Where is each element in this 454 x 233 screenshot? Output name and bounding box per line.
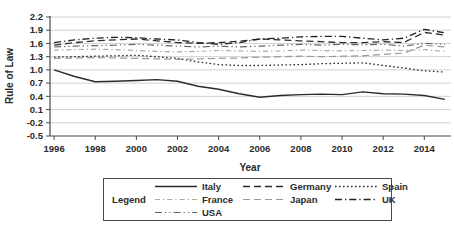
x-axis-title: Year xyxy=(239,162,260,173)
x-tick-label: 2012 xyxy=(373,143,394,154)
series-line-japan xyxy=(54,45,445,59)
spain-line-sample xyxy=(334,182,378,191)
legend-label-spain: Spain xyxy=(382,181,408,192)
legend-title: Legend xyxy=(104,194,154,205)
legend-label-france: France xyxy=(202,194,233,205)
legend-entry-france: France xyxy=(154,194,242,205)
series-lines xyxy=(54,29,445,99)
y-tick-label: 0.4 xyxy=(30,91,44,102)
legend-label-japan: Japan xyxy=(290,194,317,205)
series-line-usa xyxy=(54,43,445,47)
legend-entries: Italy Germany Spain France Japan UK xyxy=(154,180,418,219)
series-line-italy xyxy=(54,70,445,100)
x-tick-label: 2006 xyxy=(249,143,270,154)
x-tick-label: 2010 xyxy=(331,143,352,154)
x-tick-label: 2004 xyxy=(208,143,230,154)
x-tick-label: 1996 xyxy=(44,143,65,154)
y-tick-label: -0.5 xyxy=(27,130,44,141)
legend-entry-uk: UK xyxy=(334,194,418,205)
plot-area: 2.21.91.61.31.00.70.40.1-0.2-0.519961998… xyxy=(0,0,454,176)
legend-label-germany: Germany xyxy=(290,181,331,192)
y-tick-label: 1.9 xyxy=(30,24,43,35)
x-tick-label: 1998 xyxy=(85,143,106,154)
axes xyxy=(46,16,451,140)
tick-labels: 2.21.91.61.31.00.70.40.1-0.2-0.519961998… xyxy=(27,11,436,154)
legend-label-usa: USA xyxy=(202,207,222,218)
usa-line-sample xyxy=(154,208,198,217)
y-tick-label: 1.3 xyxy=(30,51,43,62)
legend-label-italy: Italy xyxy=(202,181,221,192)
italy-line-sample xyxy=(154,182,198,191)
legend-entry-spain: Spain xyxy=(334,181,418,192)
y-tick-label: 0.1 xyxy=(30,104,44,115)
uk-line-sample xyxy=(334,195,378,204)
x-tick-label: 2014 xyxy=(414,143,436,154)
series-line-france xyxy=(54,49,445,52)
y-tick-label: 0.7 xyxy=(30,77,43,88)
y-tick-label: 1.0 xyxy=(30,64,43,75)
rule-of-law-chart: 2.21.91.61.31.00.70.40.1-0.2-0.519961998… xyxy=(0,0,454,233)
x-tick-label: 2002 xyxy=(167,143,188,154)
germany-line-sample xyxy=(242,182,286,191)
legend-entry-italy: Italy xyxy=(154,181,242,192)
legend-label-uk: UK xyxy=(382,194,396,205)
gridlines xyxy=(50,17,451,123)
x-tick-label: 2008 xyxy=(290,143,311,154)
y-tick-label: 1.6 xyxy=(30,38,43,49)
legend-entry-japan: Japan xyxy=(242,194,334,205)
x-tick-label: 2000 xyxy=(126,143,147,154)
legend-entry-usa: USA xyxy=(154,207,242,218)
y-axis-title: Rule of Law xyxy=(4,48,15,104)
legend-box: Legend Italy Germany Spain France Japan xyxy=(103,178,392,221)
legend-entry-germany: Germany xyxy=(242,181,334,192)
japan-line-sample xyxy=(242,195,286,204)
y-tick-label: 2.2 xyxy=(30,11,43,22)
france-line-sample xyxy=(154,195,198,204)
y-tick-label: -0.2 xyxy=(27,117,43,128)
